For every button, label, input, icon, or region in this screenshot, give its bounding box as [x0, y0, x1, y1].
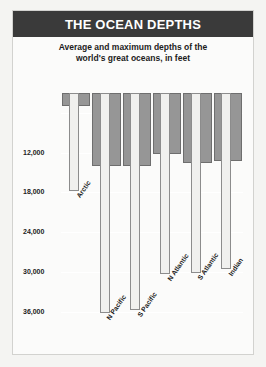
- bar-maximum-depth: [69, 93, 79, 191]
- chart-plot: 12,00018,00024,00030,00036,000 ArcticN P…: [23, 73, 245, 343]
- chart-axis-area: [61, 73, 243, 325]
- screenshot-root: THE OCEAN DEPTHS Average and maximum dep…: [0, 0, 266, 367]
- y-axis-tick-label: 18,000: [23, 188, 57, 195]
- y-axis-tick-label: 24,000: [23, 228, 57, 235]
- bar-maximum-depth: [160, 93, 170, 274]
- card-header: THE OCEAN DEPTHS: [13, 11, 253, 37]
- ocean-depths-card: THE OCEAN DEPTHS Average and maximum dep…: [12, 10, 254, 355]
- y-axis-tick-label: 12,000: [23, 149, 57, 156]
- bar-maximum-depth: [221, 93, 231, 269]
- chart-bars: [61, 73, 243, 325]
- bar-maximum-depth: [130, 93, 140, 310]
- y-axis-tick-label: 36,000: [23, 308, 57, 315]
- page-title: THE OCEAN DEPTHS: [65, 17, 201, 32]
- bar-maximum-depth: [100, 93, 110, 313]
- bar-maximum-depth: [191, 93, 201, 273]
- y-axis-tick-label: 30,000: [23, 268, 57, 275]
- chart-subtitle-line-2: world's great oceans, in feet: [27, 53, 239, 64]
- chart-subtitle: Average and maximum depths of the world'…: [27, 42, 239, 64]
- chart-subtitle-line-1: Average and maximum depths of the: [27, 42, 239, 53]
